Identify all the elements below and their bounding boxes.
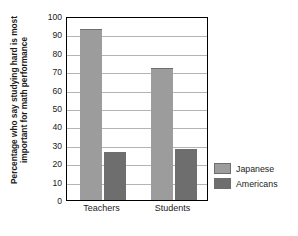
bar xyxy=(151,68,173,200)
x-axis-tick-label: Students xyxy=(155,203,191,213)
y-axis-tick-label: 40 xyxy=(52,122,62,132)
y-axis-title-line-1: Percentage who say studying hard is most xyxy=(9,16,19,184)
y-axis-tick-label: 100 xyxy=(48,12,62,22)
chart-legend: JapaneseAmericans xyxy=(214,163,278,189)
legend-item: Americans xyxy=(214,178,278,189)
legend-label: Americans xyxy=(236,179,278,189)
y-axis-title: Percentage who say studying hard is most… xyxy=(2,0,36,200)
y-axis-tick-label: 30 xyxy=(52,141,62,151)
x-axis-tick-labels: TeachersStudents xyxy=(66,203,208,219)
x-axis-tick-label: Teachers xyxy=(83,203,120,213)
legend-swatch-icon xyxy=(214,178,231,189)
bar xyxy=(175,149,197,200)
y-axis-tick-label: 60 xyxy=(52,86,62,96)
plot-area xyxy=(66,17,208,201)
y-axis-tick-label: 90 xyxy=(52,30,62,40)
bar-chart-figure: Percentage who say studying hard is most… xyxy=(0,0,298,236)
y-axis-title-line-2: important for math performance xyxy=(19,37,29,163)
y-axis-tick-label: 50 xyxy=(52,104,62,114)
legend-label: Japanese xyxy=(236,164,274,174)
y-axis-tick-label: 10 xyxy=(52,178,62,188)
legend-item: Japanese xyxy=(214,163,278,174)
bar-group xyxy=(80,18,126,200)
legend-swatch-icon xyxy=(214,163,231,174)
y-axis-tick-label: 20 xyxy=(52,159,62,169)
bar-group xyxy=(151,18,197,200)
bar xyxy=(80,29,102,200)
y-axis-tick-label: 80 xyxy=(52,49,62,59)
y-axis-tick-labels: 1009080706050403020100 xyxy=(36,17,62,201)
y-axis-tick-label: 0 xyxy=(57,196,62,206)
bars-layer xyxy=(67,18,207,200)
y-axis-tick-label: 70 xyxy=(52,67,62,77)
bar xyxy=(104,152,126,200)
